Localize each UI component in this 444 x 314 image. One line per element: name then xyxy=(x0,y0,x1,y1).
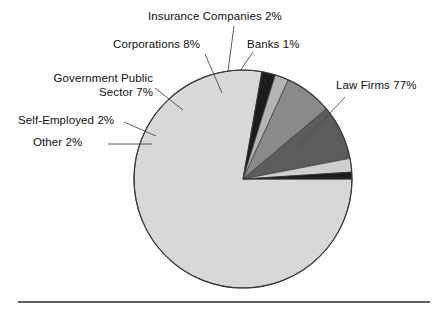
pie-chart-figure: Insurance Companies 2% Corporations 8% B… xyxy=(0,0,444,314)
slice-label-government-public-sector: Government Public Sector 7% xyxy=(33,72,153,99)
slice-label-self-employed: Self-Employed 2% xyxy=(18,114,114,128)
leader-line-banks xyxy=(240,52,253,71)
pie-slices xyxy=(134,70,352,288)
slice-label-other: Other 2% xyxy=(33,136,82,150)
slice-label-government-line2: Sector 7% xyxy=(99,86,153,98)
pie-chart-canvas xyxy=(0,0,444,314)
leader-line-insurance xyxy=(228,26,234,71)
slice-label-corporations: Corporations 8% xyxy=(113,38,200,52)
slice-label-banks: Banks 1% xyxy=(247,38,300,52)
slice-label-government-line1: Government Public xyxy=(54,72,154,84)
slice-label-insurance-companies: Insurance Companies 2% xyxy=(148,10,282,24)
slice-label-law-firms: Law Firms 77% xyxy=(336,79,417,93)
